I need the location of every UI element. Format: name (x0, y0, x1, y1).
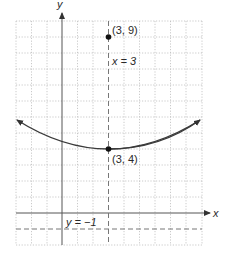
x-axis-label: x (212, 207, 219, 219)
vertex-label: (3, 4) (112, 153, 138, 165)
focus-point (106, 34, 112, 40)
directrix-label: y = −1 (65, 216, 97, 228)
y-axis-label: y (56, 0, 64, 10)
parabola-diagram: y x (3, 9) (3, 4) x = 3 y = −1 (0, 0, 230, 255)
focus-label: (3, 9) (112, 24, 138, 36)
vertex-point (106, 146, 112, 152)
axis-of-symmetry-label: x = 3 (111, 55, 137, 67)
